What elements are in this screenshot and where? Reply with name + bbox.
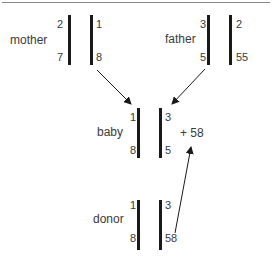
arrow-donor-to-baby-extra bbox=[175, 147, 191, 233]
arrow-mother-to-baby bbox=[97, 70, 131, 104]
arrow-father-to-baby bbox=[172, 69, 205, 104]
arrows-layer bbox=[0, 0, 280, 261]
